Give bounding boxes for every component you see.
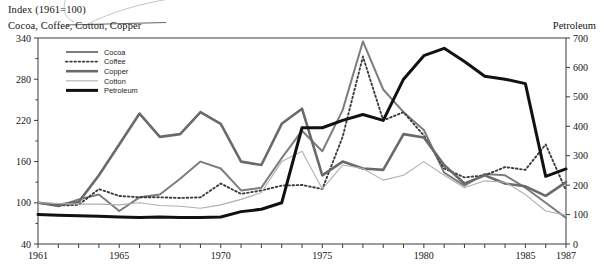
plot-area: 4010016022028034001002003004005006007001…	[0, 0, 604, 269]
y-tick-label-right: 600	[573, 62, 588, 73]
x-tick-label: 1975	[312, 250, 332, 261]
x-tick-label: 1970	[211, 250, 231, 261]
y-tick-label-right: 500	[573, 91, 588, 102]
x-tick-label: 1987	[556, 250, 576, 261]
y-tick-label-left: 40	[21, 239, 31, 250]
y-tick-label-right: 0	[573, 239, 578, 250]
y-tick-label-left: 280	[16, 74, 31, 85]
legend-group: CocoaCoffeeCopperCottonPetroleum	[66, 48, 138, 95]
legend-label-cocoa: Cocoa	[104, 48, 126, 57]
chart-root: Index (1961=100) Cocoa, Coffee, Cotton, …	[0, 0, 604, 269]
subtitle-strikethrough	[66, 23, 166, 26]
legend-label-coffee: Coffee	[104, 57, 126, 66]
x-tick-label: 1985	[515, 250, 535, 261]
y-tick-label-left: 160	[16, 156, 31, 167]
series-line-cotton	[38, 151, 566, 215]
legend-label-copper: Copper	[104, 67, 129, 76]
y-tick-label-right: 100	[573, 209, 588, 220]
y-tick-label-left: 100	[16, 197, 31, 208]
y-tick-label-right: 200	[573, 180, 588, 191]
x-tick-label: 1965	[109, 250, 129, 261]
legend-label-petroleum: Petroleum	[104, 86, 138, 95]
y-tick-label-left: 220	[16, 115, 31, 126]
y-tick-label-right: 700	[573, 33, 588, 44]
y-tick-label-right: 400	[573, 121, 588, 132]
y-tick-label-left: 340	[16, 33, 31, 44]
y-tick-label-right: 300	[573, 150, 588, 161]
legend-label-cotton: Cotton	[104, 77, 126, 86]
x-tick-label: 1980	[414, 250, 434, 261]
scan-artifact	[64, 0, 74, 22]
chart-svg: 4010016022028034001002003004005006007001…	[0, 0, 604, 269]
series-line-copper	[38, 109, 566, 205]
x-tick-label: 1961	[28, 250, 48, 261]
axes-group: 4010016022028034001002003004005006007001…	[16, 33, 588, 262]
